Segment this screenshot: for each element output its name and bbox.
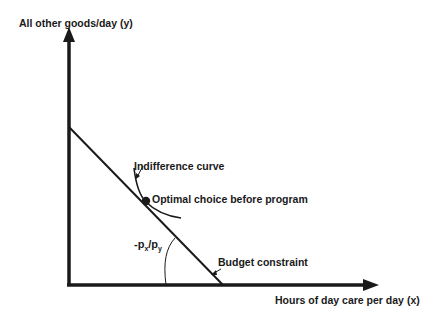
- budget-constraint-line: [69, 127, 223, 285]
- x-axis-label: Hours of day care per day (x): [275, 294, 420, 306]
- indifference-curve-label: Indifference curve: [134, 160, 225, 172]
- slope-angle-arc: [165, 238, 175, 285]
- x-axis-arrowhead-icon: [363, 279, 379, 291]
- budget-constraint-label: Budget constraint: [218, 256, 308, 268]
- y-axis-arrowhead-icon: [63, 27, 75, 42]
- diagram-canvas: All other goods/day (y) Hours of day car…: [0, 0, 445, 323]
- budget-pointer-icon: [211, 269, 221, 275]
- y-axis: [63, 27, 75, 286]
- optimal-choice-label: Optimal choice before program: [152, 193, 308, 205]
- optimal-choice-point: [142, 197, 150, 205]
- slope-label: -px/py: [134, 238, 162, 253]
- y-axis-label: All other goods/day (y): [19, 17, 133, 29]
